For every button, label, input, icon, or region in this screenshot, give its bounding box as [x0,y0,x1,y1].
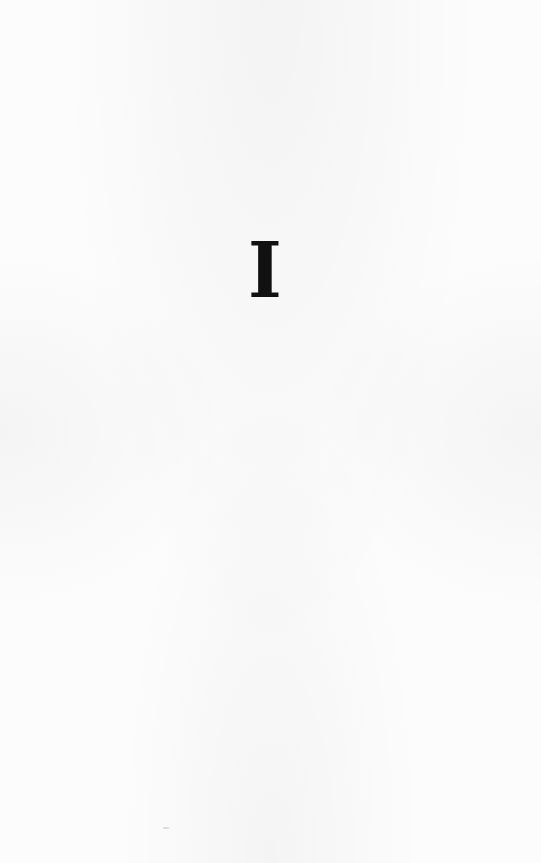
paper-speck [163,827,169,829]
part-numeral-heading: I [13,228,517,314]
document-page: I [0,0,541,863]
